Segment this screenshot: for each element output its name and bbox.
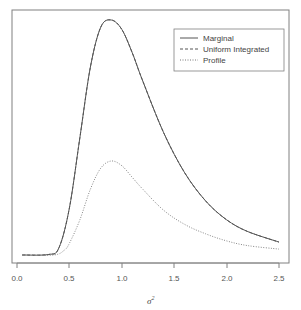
x-tick-label: 0.5: [63, 274, 75, 283]
x-tick-label: 2.0: [221, 274, 233, 283]
x-tick-label: 0.0: [11, 274, 23, 283]
x-tick-label: 1.0: [116, 274, 128, 283]
legend-profile: Profile: [203, 56, 226, 65]
x-axis-label-superscript: 2: [151, 295, 154, 301]
legend-uniform-integrated: Uniform Integrated: [203, 45, 269, 54]
x-axis-label: σ2: [147, 295, 154, 306]
x-tick-label: 2.5: [273, 274, 285, 283]
x-tick-label: 1.5: [168, 274, 180, 283]
legend-marginal: Marginal: [203, 34, 234, 43]
x-axis: 0.0 0.5 1.0 1.5 2.0 2.5: [11, 263, 285, 283]
chart: Marginal Uniform Integrated Profile 0.0 …: [0, 0, 301, 310]
curve-profile: [22, 161, 279, 255]
legend: Marginal Uniform Integrated Profile: [174, 29, 284, 71]
